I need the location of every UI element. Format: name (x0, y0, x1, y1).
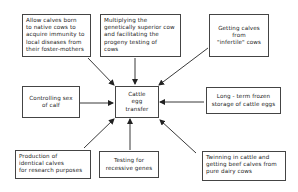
node-immunity: Allow calves born to native cows to acqu… (22, 14, 91, 57)
arrow-immunity-to-center (88, 58, 114, 85)
node-recessive: Testing for recessive genes (99, 151, 159, 178)
node-twinning: Twinning in cattle and getting beef calv… (202, 151, 286, 181)
node-identical: Production of identical calves for resea… (15, 150, 91, 179)
node-center-cattle-egg-transfer: Cattle egg transfer (115, 86, 159, 118)
arrow-twinning-to-center (160, 120, 196, 153)
node-sex: Controlling sex of calf (22, 86, 80, 118)
node-frozen: Long - term frozen storage of cattle egg… (206, 87, 281, 114)
arrow-identical-to-center (84, 119, 114, 148)
node-infertile: Getting calves from "infertile" cows (209, 14, 269, 57)
node-multiplying: Multiplying the genetically superior cow… (100, 14, 181, 57)
